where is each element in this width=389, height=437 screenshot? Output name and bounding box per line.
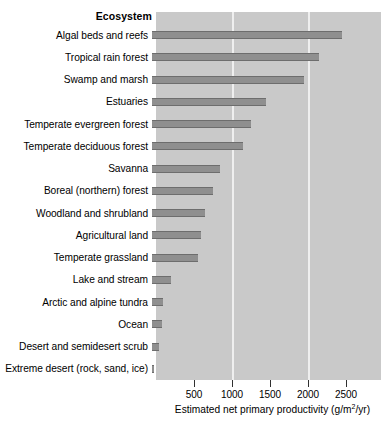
bar-category-label: Temperate deciduous forest bbox=[0, 141, 152, 152]
chart-figure: Ecosystem Algal beds and reefsTropical r… bbox=[0, 0, 389, 437]
bar-category-label: Savanna bbox=[0, 163, 152, 174]
bar[interactable] bbox=[152, 276, 171, 284]
bar[interactable] bbox=[152, 76, 304, 84]
x-axis-tick bbox=[346, 380, 347, 387]
bar[interactable] bbox=[152, 254, 198, 262]
bar-track bbox=[152, 247, 389, 269]
bar[interactable] bbox=[152, 320, 162, 328]
bar-row[interactable]: Algal beds and reefs bbox=[0, 24, 389, 46]
bar-row[interactable]: Boreal (northern) forest bbox=[0, 180, 389, 202]
bar-track bbox=[152, 358, 389, 380]
x-axis-title: Estimated net primary productivity (g/m2… bbox=[156, 404, 389, 415]
bar-row[interactable]: Temperate evergreen forest bbox=[0, 113, 389, 135]
bar-rows: Algal beds and reefsTropical rain forest… bbox=[0, 24, 389, 380]
bar-row[interactable]: Temperate grassland bbox=[0, 247, 389, 269]
x-axis-tick bbox=[194, 380, 195, 387]
x-axis-title-prefix: Estimated net primary productivity (g/m bbox=[175, 404, 352, 415]
bar[interactable] bbox=[152, 187, 213, 195]
bar-category-label: Tropical rain forest bbox=[0, 52, 152, 63]
bar-category-label: Agricultural land bbox=[0, 230, 152, 241]
bar-category-label: Woodland and shrubland bbox=[0, 208, 152, 219]
bar-track bbox=[152, 91, 389, 113]
x-axis-tick-label: 1500 bbox=[259, 389, 281, 400]
bar-track bbox=[152, 24, 389, 46]
bar[interactable] bbox=[152, 343, 159, 351]
bar-category-label: Lake and stream bbox=[0, 274, 152, 285]
x-axis-tick-label: 2500 bbox=[335, 389, 357, 400]
bar-category-label: Temperate grassland bbox=[0, 252, 152, 263]
bar[interactable] bbox=[152, 365, 154, 373]
bar[interactable] bbox=[152, 142, 243, 150]
bar-track bbox=[152, 180, 389, 202]
bar-row[interactable]: Estuaries bbox=[0, 91, 389, 113]
x-axis: 5001000150020002500 bbox=[156, 380, 381, 404]
x-axis-tick bbox=[270, 380, 271, 387]
x-axis-tick-label: 2000 bbox=[297, 389, 319, 400]
bar[interactable] bbox=[152, 120, 251, 128]
bar-track bbox=[152, 269, 389, 291]
bar-row[interactable]: Arctic and alpine tundra bbox=[0, 291, 389, 313]
bar-track bbox=[152, 158, 389, 180]
bar-row[interactable]: Swamp and marsh bbox=[0, 69, 389, 91]
bar-category-label: Boreal (northern) forest bbox=[0, 185, 152, 196]
bar-track bbox=[152, 291, 389, 313]
bar[interactable] bbox=[152, 231, 201, 239]
x-axis-tick bbox=[232, 380, 233, 387]
bar-row[interactable]: Extreme desert (rock, sand, ice) bbox=[0, 358, 389, 380]
bar-category-label: Ocean bbox=[0, 319, 152, 330]
x-axis-title-suffix: /yr) bbox=[355, 404, 370, 415]
bar[interactable] bbox=[152, 31, 342, 39]
bar[interactable] bbox=[152, 209, 205, 217]
bar-track bbox=[152, 69, 389, 91]
bar-track bbox=[152, 313, 389, 335]
bar-category-label: Desert and semidesert scrub bbox=[0, 341, 152, 352]
bar-category-label: Swamp and marsh bbox=[0, 74, 152, 85]
ecosystem-column-header: Ecosystem bbox=[0, 10, 152, 22]
bar-row[interactable]: Tropical rain forest bbox=[0, 46, 389, 68]
bar-row[interactable]: Savanna bbox=[0, 158, 389, 180]
bar-track bbox=[152, 46, 389, 68]
bar-track bbox=[152, 202, 389, 224]
x-axis-tick bbox=[308, 380, 309, 387]
bar[interactable] bbox=[152, 53, 319, 61]
bar-category-label: Arctic and alpine tundra bbox=[0, 297, 152, 308]
bar-row[interactable]: Agricultural land bbox=[0, 224, 389, 246]
bar[interactable] bbox=[152, 298, 163, 306]
bar-row[interactable]: Woodland and shrubland bbox=[0, 202, 389, 224]
x-axis-tick-label: 500 bbox=[186, 389, 203, 400]
bar-track bbox=[152, 224, 389, 246]
bar-row[interactable]: Temperate deciduous forest bbox=[0, 135, 389, 157]
bar-category-label: Extreme desert (rock, sand, ice) bbox=[0, 363, 152, 374]
bar-track bbox=[152, 135, 389, 157]
bar-track bbox=[152, 336, 389, 358]
bar[interactable] bbox=[152, 165, 220, 173]
bar-category-label: Temperate evergreen forest bbox=[0, 119, 152, 130]
bar[interactable] bbox=[152, 98, 266, 106]
bar-row[interactable]: Desert and semidesert scrub bbox=[0, 336, 389, 358]
bar-category-label: Estuaries bbox=[0, 96, 152, 107]
x-axis-tick-label: 1000 bbox=[221, 389, 243, 400]
bar-row[interactable]: Ocean bbox=[0, 313, 389, 335]
bar-row[interactable]: Lake and stream bbox=[0, 269, 389, 291]
bar-category-label: Algal beds and reefs bbox=[0, 30, 152, 41]
bar-track bbox=[152, 113, 389, 135]
